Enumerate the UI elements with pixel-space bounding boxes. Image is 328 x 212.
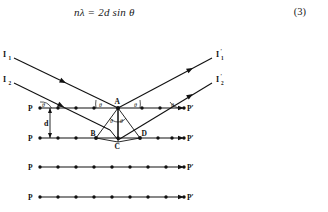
spacing-arrow-up <box>48 108 52 113</box>
atom <box>110 195 113 198</box>
incident-ray-1-label: I <box>3 50 6 59</box>
atom <box>156 136 159 139</box>
bragg-equation: nλ = 2d sin θ <box>74 6 135 18</box>
incident-ray-2-label: I <box>3 75 6 84</box>
atom <box>38 136 41 139</box>
reflected-ray-1-group <box>118 58 212 108</box>
lattice-plane-1-left-label: P <box>28 104 33 113</box>
plane-3-group: P P′ <box>28 163 194 172</box>
equation-text: nλ = 2d sin θ <box>74 6 135 18</box>
atom-A <box>116 106 120 110</box>
atom <box>128 195 131 198</box>
angle-theta-right-plane: θ <box>171 102 174 108</box>
atom <box>74 136 77 139</box>
reflected-ray-2-label: I <box>216 75 219 84</box>
lattice-plane-2-left-label: P <box>28 134 33 143</box>
equation-number: (3) <box>294 6 306 17</box>
caption-cut-off <box>0 207 328 212</box>
reflected-ray-1-label: I <box>216 50 219 59</box>
atom <box>74 195 77 198</box>
atom <box>38 165 41 168</box>
atom <box>110 165 113 168</box>
angle-theta-triangle-apex-2: θ <box>120 118 123 124</box>
atom <box>92 106 95 109</box>
atom <box>164 165 167 168</box>
incident-ray-2-subscript: 2 <box>9 80 12 86</box>
angle-theta-triangle-apex: θ <box>110 118 113 124</box>
atom <box>74 165 77 168</box>
atom <box>128 165 131 168</box>
bragg-diffraction-diagram: I 1 I 2 I 1 ′ I 2 ′ θ <box>0 30 328 212</box>
atom <box>56 195 59 198</box>
atom <box>56 165 59 168</box>
atom <box>140 106 143 109</box>
point-label-A: A <box>115 97 121 106</box>
angle-theta-incident-at-A: θ <box>99 102 102 108</box>
atom <box>164 195 167 198</box>
reflected-ray-2-line <box>118 83 212 140</box>
lattice-plane-4-left-label: P <box>28 193 33 202</box>
atom <box>170 136 173 139</box>
plane-2-group: P P′ B D C <box>28 129 194 151</box>
atom <box>56 136 59 139</box>
lattice-plane-3-left-label: P <box>28 163 33 172</box>
atom <box>38 195 41 198</box>
atom <box>74 106 77 109</box>
spacing-arrow-down <box>48 133 52 138</box>
plane-4-group: P P′ <box>28 193 194 202</box>
spacing-label-d: d <box>44 119 49 128</box>
atom <box>146 195 149 198</box>
incident-ray-1-arrowhead <box>59 78 67 86</box>
atom <box>92 165 95 168</box>
atom <box>56 106 59 109</box>
incident-ray-1-subscript: 1 <box>9 55 12 61</box>
angle-theta-left-plane: θ <box>42 102 45 108</box>
interplanar-spacing-group: d <box>44 108 52 138</box>
atom <box>116 136 119 139</box>
point-label-C: C <box>115 142 120 151</box>
reflected-ray-1-line <box>118 58 212 108</box>
incident-ray-1-group <box>14 58 118 108</box>
lattice-plane-2-right-label: P′ <box>187 134 194 143</box>
equation-row: nλ = 2d sin θ (3) <box>0 6 328 26</box>
point-label-D: D <box>142 129 148 138</box>
angle-theta-reflected-at-A: θ <box>134 102 137 108</box>
lattice-plane-2-arrowhead <box>178 136 184 140</box>
lattice-plane-4-right-label: P′ <box>187 193 194 202</box>
reflected-ray-2-prime: ′ <box>221 73 223 79</box>
reflected-ray-2-group <box>118 83 212 140</box>
lattice-plane-3-right-label: P′ <box>187 163 194 172</box>
atom <box>158 106 161 109</box>
figure-root: nλ = 2d sin θ (3) I 1 I 2 I 1 ′ I 2 <box>0 0 328 212</box>
atom <box>146 165 149 168</box>
reflected-ray-1-prime: ′ <box>221 48 223 54</box>
lattice-plane-1-right-label: P′ <box>187 104 194 113</box>
lattice-plane-4-arrowhead <box>178 195 184 199</box>
point-label-B: B <box>91 129 96 138</box>
lattice-plane-3-arrowhead <box>178 165 184 169</box>
reflected-ray-1-arrowhead <box>186 66 194 74</box>
segment-A-B <box>96 108 118 138</box>
reflected-ray-2-subscript: 2 <box>221 80 224 86</box>
reflected-ray-1-subscript: 1 <box>221 55 224 61</box>
atom <box>92 195 95 198</box>
